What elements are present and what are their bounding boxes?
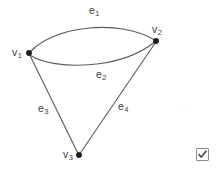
graph-diagram: v1 v2 v3 e1 e2 e3 e4	[0, 0, 218, 170]
edge-label-e3: e3	[38, 103, 48, 114]
edge-label-e1: e1	[89, 5, 99, 16]
vertex-v1-dot	[26, 50, 31, 55]
vertex-v2-dot	[153, 38, 158, 43]
paper-artifact	[182, 102, 185, 109]
vertex-v3-dot	[76, 152, 81, 157]
edge-e2-path	[31, 42, 156, 66]
checkbox-checked[interactable]	[196, 148, 209, 161]
edge-label-e4: e4	[118, 101, 128, 112]
edge-e1-path	[31, 27, 156, 51]
checkmark-icon	[197, 149, 208, 160]
vertex-label-v3: v3	[63, 149, 73, 160]
edge-e4-path	[80, 43, 156, 154]
vertex-label-v2: v2	[152, 24, 162, 35]
edge-label-e2: e2	[96, 69, 106, 80]
vertex-label-v1: v1	[12, 47, 22, 58]
graph-canvas	[0, 0, 218, 170]
